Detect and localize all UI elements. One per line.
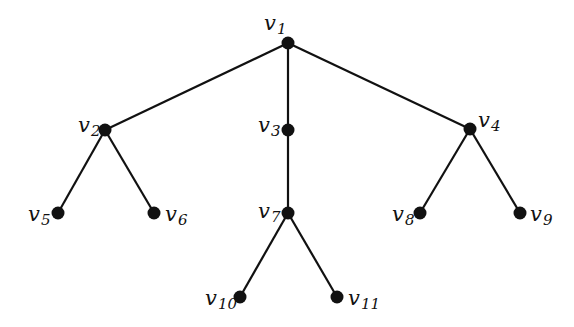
- node-v3: [282, 124, 295, 137]
- label-v5: v5: [28, 202, 50, 229]
- label-v8: v8: [392, 202, 414, 229]
- labels-group: v1v2v3v4v5v6v7v8v9v10v11: [28, 11, 553, 313]
- label-v1: v1: [264, 11, 286, 38]
- node-v8: [414, 207, 427, 220]
- label-v2: v2: [78, 113, 100, 140]
- node-v6: [148, 207, 161, 220]
- tree-diagram-svg: v1v2v3v4v5v6v7v8v9v10v11: [0, 0, 574, 327]
- label-v11: v11: [348, 286, 380, 313]
- edge-v2-v6: [105, 130, 154, 213]
- edges-group: [58, 43, 520, 297]
- node-v5: [52, 207, 65, 220]
- label-v7: v7: [258, 199, 281, 226]
- label-v4: v4: [478, 108, 500, 135]
- edge-v7-v11: [288, 213, 337, 297]
- node-v2: [99, 124, 112, 137]
- node-v7: [282, 207, 295, 220]
- label-v9: v9: [530, 202, 553, 229]
- node-v4: [464, 123, 477, 136]
- label-v6: v6: [165, 202, 188, 229]
- label-v3: v3: [258, 113, 280, 140]
- edge-v4-v8: [420, 129, 470, 213]
- node-v11: [331, 291, 344, 304]
- label-v10: v10: [205, 286, 237, 313]
- edge-v1-v4: [288, 43, 470, 129]
- node-v1: [282, 37, 295, 50]
- node-v9: [514, 207, 527, 220]
- edge-v2-v5: [58, 130, 105, 213]
- tree-diagram: v1v2v3v4v5v6v7v8v9v10v11: [0, 0, 574, 327]
- edge-v7-v10: [240, 213, 288, 297]
- edge-v4-v9: [470, 129, 520, 213]
